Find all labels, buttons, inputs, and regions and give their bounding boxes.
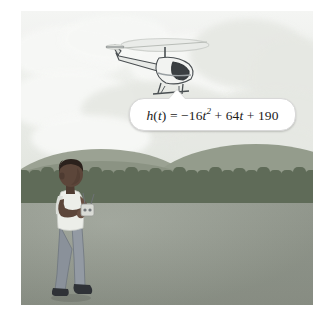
illustration-scene: h(t) = −16t2 + 64t + 190 — [21, 11, 313, 305]
height-equation: h(t) = −16t2 + 64t + 190 — [146, 106, 278, 124]
equation-term1-sign: − — [181, 107, 189, 122]
boy-right-shoe — [74, 284, 93, 294]
equation-paren-close: ) — [162, 107, 167, 122]
callout-pointer — [168, 90, 186, 100]
boy-right-leg — [72, 226, 85, 286]
boy-ear — [59, 173, 64, 180]
equation-term2-variable: t — [239, 107, 243, 122]
remote-control-helicopter — [103, 31, 211, 103]
height-function-callout: h(t) = −16t2 + 64t + 190 — [129, 98, 296, 131]
boy-left-leg — [55, 226, 72, 291]
boy-with-remote-control — [41, 154, 123, 302]
remote-control-transmitter — [81, 193, 94, 216]
equation-plus-1: + — [214, 107, 222, 122]
antenna — [91, 194, 94, 204]
equation-constant: 190 — [258, 107, 279, 122]
equation-term1-coefficient: 16 — [189, 107, 203, 122]
equation-equals: = — [170, 107, 178, 122]
equation-term2-coefficient: 64 — [226, 107, 240, 122]
equation-plus-2: + — [247, 107, 255, 122]
equation-term1-exponent: 2 — [206, 106, 211, 116]
boy-left-shoe — [52, 288, 69, 296]
